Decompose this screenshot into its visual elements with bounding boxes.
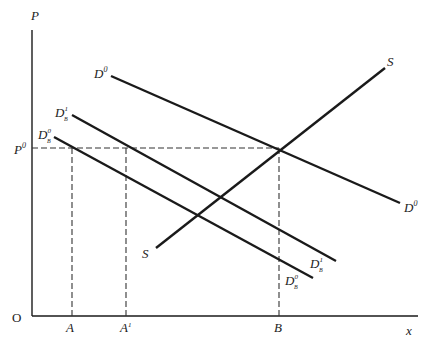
price-p0-label: P0 [13, 141, 26, 157]
label-d0b-right: D0B [284, 273, 298, 290]
label-d0-left: D0 [93, 65, 107, 81]
label-d0-right: D0 [403, 199, 417, 215]
origin-label: O [12, 310, 21, 325]
tick-label-a1: A1 [119, 320, 131, 335]
label-d1b-left: D1B [54, 105, 68, 122]
x-axis-label: x [405, 323, 412, 338]
curve-d0b [54, 137, 313, 278]
y-axis-label: P [30, 8, 39, 23]
label-d0b-left: D0B [37, 127, 51, 144]
tick-label-b: B [274, 320, 282, 335]
curve-s [156, 68, 385, 248]
curve-d0 [111, 76, 400, 203]
label-s-bottom: S [142, 246, 149, 261]
supply-demand-diagram: P x O P0 D0 D0 D1B D1B D0B D0B S S A A1 … [0, 0, 431, 344]
label-d1b-right: D1B [309, 256, 323, 273]
label-s-top: S [387, 54, 394, 69]
tick-label-a: A [65, 320, 74, 335]
